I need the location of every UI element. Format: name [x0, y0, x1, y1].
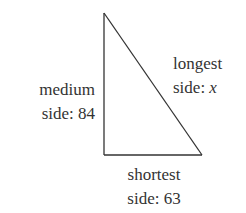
- medium-side-value-line: side: 84: [39, 102, 95, 126]
- medium-side-prefix: side:: [42, 104, 78, 123]
- shortest-side-value-line: side: 63: [118, 187, 190, 211]
- shortest-side-label: shortest side: 63: [118, 163, 190, 211]
- longest-side-value: x: [209, 78, 217, 97]
- shortest-side-prefix: side:: [127, 189, 163, 208]
- shortest-side-name: shortest: [118, 163, 190, 187]
- longest-side-prefix: side:: [173, 78, 209, 97]
- shortest-side-value: 63: [164, 189, 181, 208]
- medium-side-label: medium side: 84: [39, 78, 95, 126]
- medium-side-name: medium: [39, 78, 95, 102]
- longest-side-label: longest side: x: [173, 52, 222, 100]
- medium-side-value: 84: [78, 104, 95, 123]
- longest-side-value-line: side: x: [173, 76, 222, 100]
- longest-side-name: longest: [173, 52, 222, 76]
